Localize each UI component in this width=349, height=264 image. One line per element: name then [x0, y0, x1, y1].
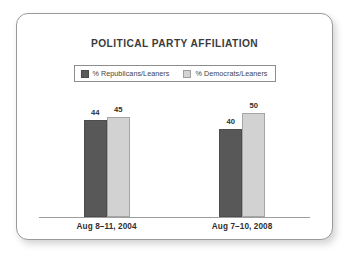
bar-value-2004-republicans: 44 [91, 109, 99, 117]
chart-title: POLITICAL PARTY AFFILIATION [17, 38, 332, 49]
bar-value-2008-democrats: 50 [250, 102, 258, 110]
bar-wrap-2004-democrats: 45 [107, 102, 130, 217]
bar-group-2008: 40 50 [219, 102, 265, 217]
legend-swatch-republicans-icon [80, 70, 88, 78]
bar-value-2004-democrats: 45 [114, 106, 122, 114]
bar-wrap-2008-democrats: 50 [242, 102, 265, 217]
legend-item-democrats[interactable]: % Democrats/Leaners [183, 69, 267, 78]
plot-area: 44 45 40 50 [39, 102, 310, 217]
bar-wrap-2004-republicans: 44 [84, 102, 107, 217]
legend-label-republicans: % Republicans/Leaners [92, 69, 169, 78]
bar-2004-democrats[interactable] [107, 117, 130, 217]
bar-group-2004: 44 45 [84, 102, 130, 217]
legend-swatch-democrats-icon [183, 70, 191, 78]
bar-value-2008-republicans: 40 [227, 118, 235, 126]
chart-legend: % Republicans/Leaners % Democrats/Leaner… [73, 65, 275, 82]
bar-2004-republicans[interactable] [84, 120, 107, 217]
category-label-2004: Aug 8–11, 2004 [77, 222, 137, 231]
category-axis-labels: Aug 8–11, 2004 Aug 7–10, 2008 [39, 222, 310, 231]
legend-item-republicans[interactable]: % Republicans/Leaners [80, 69, 169, 78]
x-axis-line [39, 217, 310, 218]
legend-label-democrats: % Democrats/Leaners [195, 69, 267, 78]
screenshot-stage: POLITICAL PARTY AFFILIATION % Republican… [0, 0, 349, 264]
bar-2008-republicans[interactable] [219, 129, 242, 217]
chart-card: POLITICAL PARTY AFFILIATION % Republican… [16, 13, 333, 240]
bar-2008-democrats[interactable] [242, 113, 265, 217]
bar-groups: 44 45 40 50 [39, 102, 310, 217]
bar-wrap-2008-republicans: 40 [219, 102, 242, 217]
category-label-2008: Aug 7–10, 2008 [212, 222, 273, 231]
